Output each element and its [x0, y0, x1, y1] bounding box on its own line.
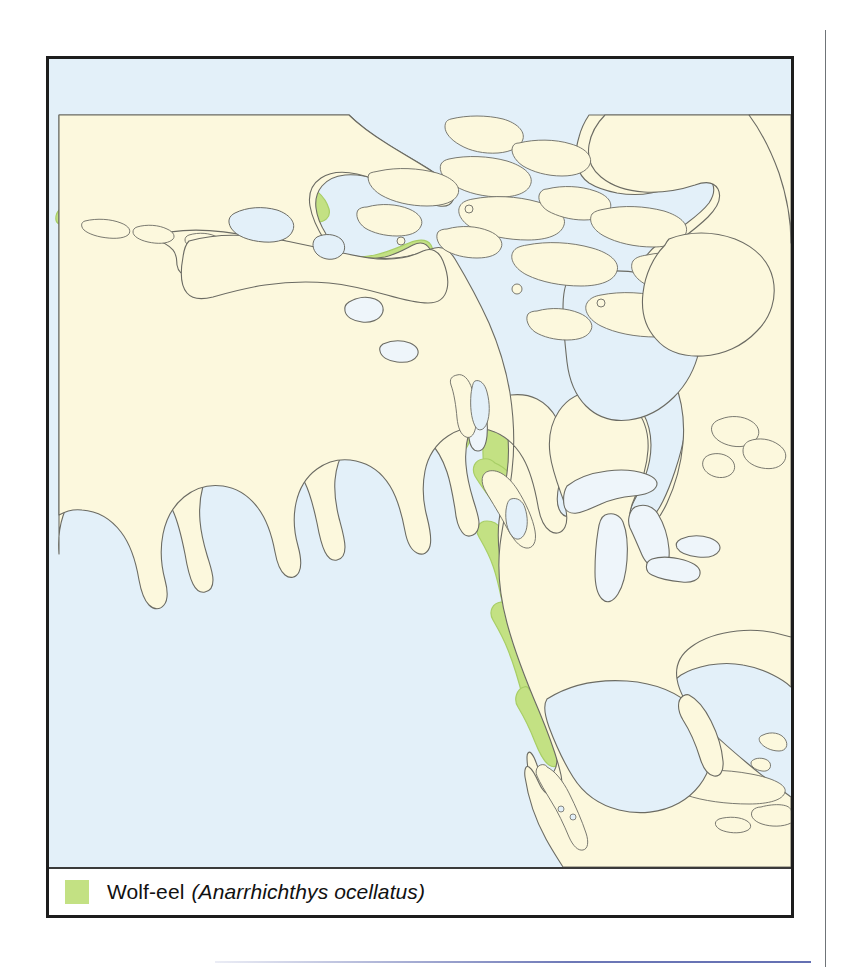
- great-bear-lake: [345, 297, 383, 322]
- north-america-map[interactable]: .land { fill:#fcf8dd; stroke:#6b6b63; st…: [49, 59, 791, 867]
- map-panel[interactable]: .land { fill:#fcf8dd; stroke:#6b6b63; st…: [49, 59, 791, 867]
- map-legend: Wolf-eel(Anarrhichthys ocellatus): [49, 869, 791, 915]
- legend-label: Wolf-eel(Anarrhichthys ocellatus): [107, 880, 425, 904]
- legend-scientific-name: (Anarrhichthys ocellatus): [191, 880, 425, 903]
- page-canvas: .land { fill:#fcf8dd; stroke:#6b6b63; st…: [0, 0, 843, 967]
- baja-lagoon-1: [558, 806, 564, 812]
- range-color-swatch: [65, 880, 89, 904]
- range-map-figure: .land { fill:#fcf8dd; stroke:#6b6b63; st…: [46, 56, 794, 918]
- legend-common-name: Wolf-eel: [107, 880, 184, 903]
- baja-lagoon-2: [570, 814, 576, 820]
- page-bottom-rule: [215, 961, 811, 963]
- page-right-rule: [825, 30, 826, 967]
